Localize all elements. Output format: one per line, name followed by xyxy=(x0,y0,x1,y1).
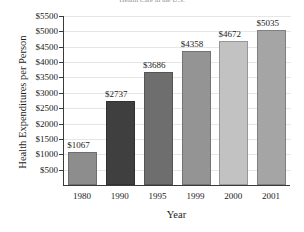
y-axis-tick-mark xyxy=(59,47,63,48)
x-axis-tick-label: 1990 xyxy=(101,190,139,202)
bar-value-label: $4672 xyxy=(206,29,253,39)
y-axis-tick-label: $5500 xyxy=(14,12,58,21)
y-axis-tick-mark xyxy=(59,139,63,140)
y-axis-tick-mark xyxy=(59,124,63,125)
bar[interactable] xyxy=(182,51,211,185)
bar[interactable] xyxy=(257,30,286,185)
y-axis-tick-mark xyxy=(59,31,63,32)
y-axis-tick-labels: $500$1000$1500$2000$2500$3000$3500$4000$… xyxy=(14,16,58,186)
x-axis-tick-label: 1995 xyxy=(139,190,177,202)
bar-value-label: $2737 xyxy=(93,89,140,99)
y-axis-tick-label: $1500 xyxy=(14,135,58,144)
bar-value-label: $3686 xyxy=(131,60,178,70)
x-axis-tick-labels: 198019901995199920002001 xyxy=(63,190,290,204)
bar-value-label: $5035 xyxy=(244,18,291,28)
y-axis-tick-label: $4500 xyxy=(14,43,58,52)
y-axis-tick-label: $3500 xyxy=(14,73,58,82)
bars-layer: $1067$2737$3686$4358$4672$5035 xyxy=(64,16,291,185)
y-axis-tick-label: $5000 xyxy=(14,27,58,36)
y-axis-tick-mark xyxy=(59,154,63,155)
x-axis-tick-label: 2000 xyxy=(214,190,252,202)
bar-slot: $4358 xyxy=(178,16,216,185)
y-axis-tick-mark xyxy=(59,62,63,63)
bar[interactable] xyxy=(68,152,97,185)
x-axis-tick-label: 1999 xyxy=(177,190,215,202)
y-axis-tick-label: $500 xyxy=(14,166,58,175)
bar-value-label: $4358 xyxy=(169,39,216,49)
x-axis-tick-label: 1980 xyxy=(63,190,101,202)
bar-value-label: $1067 xyxy=(55,140,102,150)
y-axis-tick-mark xyxy=(59,170,63,171)
y-axis-tick-label: $3000 xyxy=(14,89,58,98)
bar-slot: $2737 xyxy=(102,16,140,185)
y-axis-tick-label: $2500 xyxy=(14,104,58,113)
bar[interactable] xyxy=(144,72,173,185)
y-axis-tick-label: $1000 xyxy=(14,150,58,159)
bar[interactable] xyxy=(219,41,248,185)
chart-title: Health Care in the U.S. xyxy=(0,0,304,4)
y-axis-tick-mark xyxy=(59,108,63,109)
bar[interactable] xyxy=(106,101,135,185)
bar-slot: $1067 xyxy=(64,16,102,185)
x-axis-tick-label: 2001 xyxy=(252,190,290,202)
bar-chart-figure: Health Care in the U.S. Health Expenditu… xyxy=(0,0,304,232)
bar-slot: $5035 xyxy=(253,16,291,185)
y-axis-tick-label: $4000 xyxy=(14,58,58,67)
y-axis-tick-mark xyxy=(59,93,63,94)
y-axis-tick-mark xyxy=(59,16,63,17)
plot-area: $1067$2737$3686$4358$4672$5035 xyxy=(63,16,290,186)
bar-slot: $4672 xyxy=(215,16,253,185)
y-axis-tick-label: $2000 xyxy=(14,120,58,129)
y-axis-tick-mark xyxy=(59,77,63,78)
x-axis-title: Year xyxy=(63,208,290,221)
